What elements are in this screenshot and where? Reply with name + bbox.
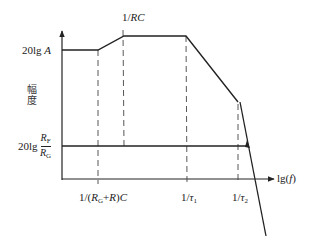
lower-gain-denominator: RG xyxy=(40,147,51,160)
tick0-var2: R xyxy=(109,191,116,203)
top-marker-var: RC xyxy=(131,11,145,23)
lower-gain-fraction: RF RG xyxy=(40,133,51,160)
x-axis-label-suffix: ) xyxy=(292,172,296,184)
tick0-var1: R xyxy=(91,191,98,203)
x-axis-label: lg(f) xyxy=(277,173,296,184)
magnitude-curve xyxy=(62,36,238,102)
dashed-guide-rc xyxy=(123,30,124,147)
y-axis-label: 幅度 xyxy=(23,84,38,106)
lower-gain-prefix: 20lg xyxy=(18,141,38,152)
top-marker-num: 1/ xyxy=(122,11,131,23)
lower-gain-numerator: RF xyxy=(41,133,51,147)
top-marker-label: 1/RC xyxy=(122,12,145,23)
tick0-var3: C xyxy=(120,191,127,203)
upper-gain-prefix: 20lg xyxy=(22,44,44,56)
x-tick-label-tau1: 1/τ1 xyxy=(181,192,197,205)
dashed-guide-tau1 xyxy=(186,36,187,184)
bode-plot xyxy=(0,0,315,237)
tick2-prefix: 1/ xyxy=(232,191,241,203)
num-sub: F xyxy=(47,137,51,145)
tick1-sub: 1 xyxy=(194,197,198,205)
tick1-prefix: 1/ xyxy=(181,191,190,203)
tick2-sub: 2 xyxy=(245,197,249,205)
x-tick-label-tau2: 1/τ2 xyxy=(232,192,248,205)
tick0-prefix: 1/( xyxy=(79,191,91,203)
upper-gain-label: 20lg A xyxy=(22,45,51,56)
den-sub: G xyxy=(46,152,51,160)
upper-gain-var: A xyxy=(44,44,51,56)
rolloff-line xyxy=(240,102,266,236)
x-tick-label-rgrc: 1/(RG+R)C xyxy=(79,192,127,205)
x-axis-label-prefix: lg( xyxy=(277,172,289,184)
